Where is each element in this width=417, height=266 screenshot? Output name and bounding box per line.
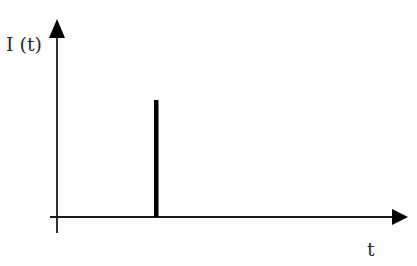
x-axis-arrow-icon — [392, 209, 408, 225]
y-axis-label: I (t) — [6, 33, 42, 55]
x-axis-label: t — [367, 238, 375, 260]
impulse-diagram — [0, 0, 417, 266]
y-axis-arrow-icon — [49, 19, 65, 38]
impulse-spike — [154, 100, 159, 217]
